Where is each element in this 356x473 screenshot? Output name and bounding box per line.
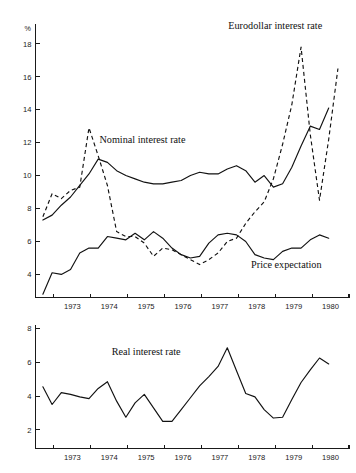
x-tick-label: 1977 [211,302,228,311]
series-annotation: Eurodollar interest rate [228,20,322,31]
x-tick-label: 1976 [175,302,192,311]
lower-x-ticks: 19731974197519761977197819791980 [54,445,349,462]
x-tick-label: 1980 [322,453,339,462]
y-tick-label: 18 [23,40,31,49]
upper-chart: % 4681012141618 197319741975197619771978… [23,20,349,311]
x-tick-label: 1976 [175,453,192,462]
x-tick-label: 1978 [248,453,265,462]
x-tick-label: 1973 [64,453,81,462]
y-tick-label: 2 [27,426,31,435]
y-tick-label: 4 [27,392,31,401]
upper-y-ticks: 4681012141618 [23,40,39,280]
x-tick-label: 1978 [248,302,265,311]
chart-canvas: % 4681012141618 197319741975197619771978… [0,0,356,473]
lower-annotations: Real interest rate [112,346,181,357]
y-tick-label: 8 [27,324,31,333]
interest-rate-figure: % 4681012141618 197319741975197619771978… [0,0,356,473]
x-tick-label: 1980 [322,302,339,311]
y-tick-label: 6 [27,237,31,246]
x-tick-label: 1975 [138,302,155,311]
x-tick-label: 1973 [64,302,81,311]
y-tick-label: 10 [23,171,31,180]
x-tick-label: 1974 [101,302,118,311]
series-line [43,108,329,220]
lower-y-ticks: 2468 [27,324,39,435]
series-line [43,348,329,422]
series-annotation: Real interest rate [112,346,181,357]
y-axis-unit-label: % [25,24,32,33]
upper-annotations: Eurodollar interest rateNominal interest… [99,20,322,270]
lower-series [43,348,329,422]
y-tick-label: 12 [23,138,31,147]
y-tick-label: 8 [27,204,31,213]
x-tick-label: 1977 [211,453,228,462]
x-tick-label: 1974 [101,453,118,462]
y-tick-label: 14 [23,105,31,114]
lower-chart: 2468 19731974197519761977197819791980 Re… [27,324,349,461]
upper-x-ticks: 19731974197519761977197819791980 [54,294,349,311]
series-annotation: Price expectation [251,259,321,270]
x-tick-label: 1975 [138,453,155,462]
y-tick-label: 4 [27,270,31,279]
y-tick-label: 16 [23,73,31,82]
y-tick-label: 6 [27,358,31,367]
series-line [43,47,338,264]
upper-series [43,47,338,294]
x-tick-label: 1979 [285,453,302,462]
series-annotation: Nominal interest rate [99,134,185,145]
x-tick-label: 1979 [285,302,302,311]
